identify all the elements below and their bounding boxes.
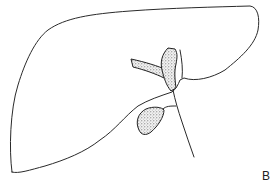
gallbladder bbox=[137, 107, 164, 134]
panel-label: B bbox=[262, 170, 270, 182]
cystic-duct bbox=[163, 106, 176, 109]
liver-outline bbox=[10, 6, 258, 173]
lobe-cleft bbox=[180, 50, 182, 78]
common-bile-duct bbox=[173, 90, 194, 157]
liver-diagram bbox=[0, 0, 275, 186]
right-hepatic-duct bbox=[161, 48, 177, 91]
